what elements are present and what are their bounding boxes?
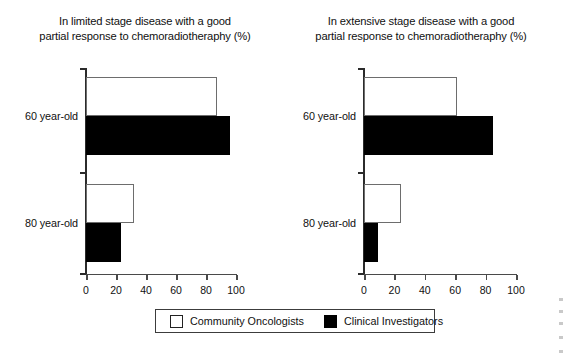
x-label-60-right: 60 [449,284,461,296]
x-tick-40-right [425,275,427,280]
scan-artifact-marks [555,298,563,356]
x-label-20-left: 20 [110,284,122,296]
chart-panel-limited-stage: In limited stage disease with a good par… [0,0,290,300]
legend-item-community-oncologists: Community Oncologists [170,315,304,328]
x-label-80-right: 80 [480,284,492,296]
chart-title-left: In limited stage disease with a good par… [0,14,290,44]
x-label-0-right: 0 [361,284,367,296]
bar-left-60-clinical-investigators [86,116,230,155]
x-tick-0-left [86,275,88,280]
x-tick-20-left [116,275,118,280]
y-tick-top-right [358,68,364,70]
chart-title-right-line2: partial response to chemoradiotheraphy (… [278,29,564,44]
legend-swatch-filled-square-icon [324,315,337,328]
legend-swatch-open-square-icon [170,315,183,328]
x-tick-20-right [394,275,396,280]
chart-legend: Community Oncologists Clinical Investiga… [155,309,435,333]
plot-area-right: 60 year-old 80 year-old 0 20 40 60 80 10… [364,68,516,275]
figure: In limited stage disease with a good par… [0,0,564,359]
x-label-20-right: 20 [389,284,401,296]
chart-title-left-line2: partial response to chemoradiotheraphy (… [0,29,290,44]
category-label-60-left: 60 year-old [25,110,78,122]
x-tick-60-right [455,275,457,280]
y-tick-mid-left [80,172,86,174]
x-label-40-right: 40 [419,284,431,296]
x-tick-100-right [516,275,518,280]
x-label-100-right: 100 [507,284,525,296]
x-tick-0-right [364,275,366,280]
chart-panel-extensive-stage: In extensive stage disease with a good p… [278,0,564,300]
x-tick-80-left [206,275,208,280]
x-tick-100-left [236,275,238,280]
category-label-80-right: 80 year-old [303,217,356,229]
bar-right-80-community-oncologists [364,184,401,223]
x-label-80-left: 80 [200,284,212,296]
chart-title-right: In extensive stage disease with a good p… [278,14,564,44]
bar-left-80-community-oncologists [86,184,134,223]
category-label-60-right: 60 year-old [303,110,356,122]
x-axis-left [85,274,237,276]
chart-title-left-line1: In limited stage disease with a good [0,14,290,29]
x-tick-60-left [176,275,178,280]
legend-item-clinical-investigators: Clinical Investigators [324,315,443,328]
legend-label-community-oncologists: Community Oncologists [190,315,304,327]
x-tick-80-right [486,275,488,280]
bar-right-60-community-oncologists [364,77,457,116]
y-tick-mid-right [358,172,364,174]
bar-left-60-community-oncologists [86,77,217,116]
x-label-0-left: 0 [83,284,89,296]
category-label-80-left: 80 year-old [25,217,78,229]
x-axis-right [363,274,517,276]
x-label-60-left: 60 [170,284,182,296]
x-tick-40-left [146,275,148,280]
bar-left-80-clinical-investigators [86,223,121,262]
x-label-100-left: 100 [227,284,245,296]
chart-title-right-line1: In extensive stage disease with a good [278,14,564,29]
plot-area-left: 60 year-old 80 year-old 0 20 40 60 80 10… [86,68,236,275]
bar-right-60-clinical-investigators [364,116,493,155]
y-tick-top-left [80,68,86,70]
legend-label-clinical-investigators: Clinical Investigators [344,315,443,327]
x-label-40-left: 40 [140,284,152,296]
bar-right-80-clinical-investigators [364,223,378,262]
